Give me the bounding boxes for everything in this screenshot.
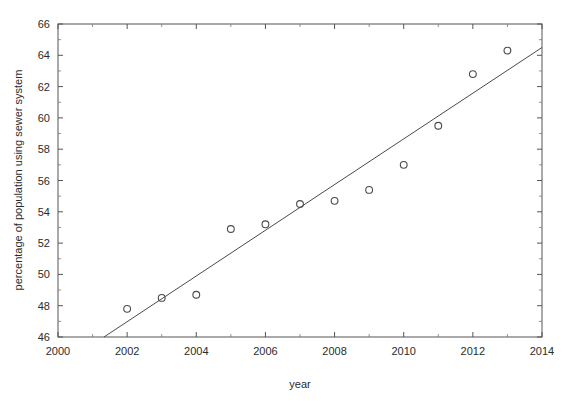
y-tick-label: 62 (38, 81, 50, 93)
y-axis-title: percentage of population using sewer sys… (12, 70, 24, 291)
y-tick-label: 58 (38, 143, 50, 155)
y-tick-label: 66 (38, 18, 50, 30)
y-tick-label: 60 (38, 112, 50, 124)
y-tick-label: 54 (38, 206, 50, 218)
x-axis-title: year (289, 378, 311, 390)
x-tick-label: 2010 (391, 345, 415, 357)
chart-background (0, 0, 578, 401)
x-tick-label: 2014 (530, 345, 554, 357)
x-tick-label: 2000 (46, 345, 70, 357)
y-tick-label: 50 (38, 268, 50, 280)
y-tick-label: 52 (38, 237, 50, 249)
x-tick-label: 2006 (253, 345, 277, 357)
x-tick-label: 2012 (461, 345, 485, 357)
scatter-chart: 20002002200420062008201020122014 4648505… (0, 0, 578, 401)
x-tick-label: 2004 (184, 345, 208, 357)
y-tick-label: 56 (38, 175, 50, 187)
x-tick-label: 2002 (115, 345, 139, 357)
y-tick-label: 48 (38, 300, 50, 312)
x-tick-label: 2008 (322, 345, 346, 357)
plot-area: 20002002200420062008201020122014 4648505… (0, 0, 578, 401)
y-tick-label: 64 (38, 49, 50, 61)
y-tick-label: 46 (38, 331, 50, 343)
